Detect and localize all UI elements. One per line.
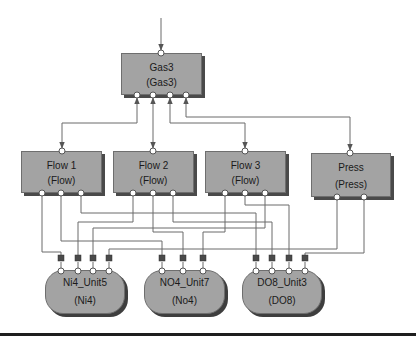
port-circle[interactable] (222, 190, 228, 196)
bottom-divider (0, 333, 416, 336)
port-circle[interactable] (150, 148, 156, 154)
port-circle[interactable] (150, 190, 156, 196)
port-circle[interactable] (58, 190, 64, 196)
port-circle[interactable] (262, 190, 268, 196)
port-circle[interactable] (150, 92, 156, 98)
port-circle[interactable] (242, 190, 248, 196)
port-circle[interactable] (361, 194, 367, 200)
port-circle[interactable] (242, 148, 248, 154)
port-circle[interactable] (90, 268, 96, 274)
port-circle[interactable] (347, 150, 353, 156)
port-circle[interactable] (170, 190, 176, 196)
port-circle[interactable] (180, 268, 186, 274)
port-circle[interactable] (286, 268, 292, 274)
port-circle[interactable] (78, 190, 84, 196)
port-circle[interactable] (159, 268, 165, 274)
port-circle[interactable] (58, 268, 64, 274)
port-circle[interactable] (39, 190, 45, 196)
port-circle[interactable] (106, 268, 112, 274)
port-circle[interactable] (75, 268, 81, 274)
port-circle[interactable] (183, 92, 189, 98)
port-circle[interactable] (253, 268, 259, 274)
port-circle[interactable] (59, 148, 65, 154)
port-circle[interactable] (200, 268, 206, 274)
port-circle[interactable] (302, 268, 308, 274)
port-circle[interactable] (269, 268, 275, 274)
port-circle[interactable] (130, 190, 136, 196)
port-circle[interactable] (158, 50, 164, 56)
port-circle[interactable] (134, 92, 140, 98)
port-circle[interactable] (334, 194, 340, 200)
port-layer (0, 0, 416, 339)
port-circle[interactable] (167, 92, 173, 98)
